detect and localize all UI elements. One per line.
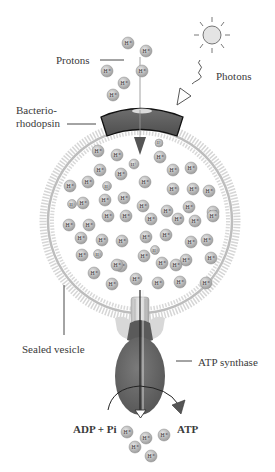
proton-symbol: H⁺: [142, 48, 149, 54]
protons-outside-bottom: H⁺H⁺H⁺H⁺H⁺: [121, 426, 170, 462]
proton-symbol: H⁺: [142, 234, 149, 240]
proton-symbol: H⁺: [120, 80, 127, 86]
proton-symbol: H⁺: [101, 197, 108, 203]
proton-symbol: H⁺: [158, 260, 165, 266]
proton-symbol: H⁺: [65, 222, 72, 228]
proton-symbol: H⁺: [84, 179, 91, 185]
proton-symbol: H⁺: [162, 232, 169, 238]
adp-pi-label: ADP + Pi: [73, 423, 117, 435]
proton-symbol: H⁺: [131, 162, 137, 167]
proton-symbol: H⁺: [185, 204, 192, 210]
sun-icon: [194, 17, 230, 53]
proton-symbol: H⁺: [113, 262, 120, 268]
proton-symbol: H⁺: [142, 435, 149, 441]
proton-symbol: H⁺: [78, 252, 85, 258]
proton-symbol: H⁺: [138, 68, 145, 74]
bacteriorhodopsin-label-line2: rhodopsin: [16, 117, 60, 129]
proton-symbol: H⁺: [169, 186, 176, 192]
proton-symbol: H⁺: [191, 218, 198, 224]
proton-symbol: H⁺: [98, 237, 105, 243]
proton-symbol: H⁺: [113, 152, 120, 158]
proton-symbol: H⁺: [147, 216, 154, 222]
proton-symbol: H⁺: [152, 248, 157, 253]
proton-symbol: H⁺: [163, 208, 170, 214]
proton-symbol: H⁺: [103, 68, 110, 74]
proton-symbol: H⁺: [120, 195, 127, 201]
proton-symbol: H⁺: [187, 239, 194, 245]
proton-symbol: H⁺: [122, 213, 129, 219]
sealed-vesicle-label: Sealed vesicle: [22, 343, 85, 355]
proton-symbol: H⁺: [176, 279, 183, 285]
proton-symbol: H⁺: [141, 179, 148, 185]
proton-symbol: H⁺: [202, 280, 209, 286]
atp-label: ATP: [177, 423, 198, 435]
atp-synthase-label: ATP synthase: [198, 356, 258, 368]
proton-symbol: H⁺: [160, 432, 167, 438]
proton-symbol: H⁺: [123, 429, 130, 435]
proton-symbol: H⁺: [156, 154, 163, 160]
proton-symbol: H⁺: [132, 276, 139, 282]
proton-symbol: H⁺: [124, 40, 131, 46]
proton-symbol: H⁺: [96, 167, 103, 173]
photons-label: Photons: [216, 70, 251, 82]
protons-outside-top: H⁺H⁺H⁺H⁺H⁺H⁺: [101, 37, 152, 101]
proton-symbol: H⁺: [77, 235, 84, 241]
proton-symbol: H⁺: [157, 141, 162, 145]
bacteriorhodopsin-atp-diagram: H⁺H⁺H⁺H⁺H⁺H⁺ H⁺H⁺H⁺H⁺H⁺H⁺H⁺H⁺H⁺H⁺H⁺H⁺H⁺H…: [0, 0, 275, 472]
proton-symbol: H⁺: [95, 252, 100, 257]
proton-symbol: H⁺: [182, 257, 189, 263]
proton-symbol: H⁺: [205, 188, 212, 194]
proton-symbol: H⁺: [139, 203, 146, 209]
proton-symbol: H⁺: [169, 167, 176, 173]
proton-symbol: H⁺: [94, 148, 101, 154]
proton-symbol: H⁺: [79, 200, 86, 206]
proton-symbol: H⁺: [85, 222, 92, 228]
proton-symbol: H⁺: [207, 255, 214, 261]
proton-symbol: H⁺: [154, 280, 161, 286]
proton-symbol: H⁺: [172, 262, 179, 268]
proton-symbol: H⁺: [209, 213, 216, 219]
bacteriorhodopsin-label-line1: Bacterio-: [16, 104, 57, 116]
proton-symbol: H⁺: [187, 165, 194, 171]
proton-symbol: H⁺: [131, 444, 138, 450]
photon-wave-icon: [177, 60, 202, 105]
proton-symbol: H⁺: [118, 238, 125, 244]
proton-symbol: H⁺: [117, 171, 124, 177]
proton-symbol: H⁺: [109, 92, 116, 98]
proton-symbol: H⁺: [69, 202, 74, 207]
proton-symbol: H⁺: [203, 237, 210, 243]
proton-symbol: H⁺: [140, 253, 147, 259]
proton-symbol: H⁺: [189, 186, 196, 192]
proton-symbol: H⁺: [174, 216, 181, 222]
protons-label: Protons: [56, 54, 90, 66]
proton-symbol: H⁺: [108, 281, 115, 287]
bacteriorhodopsin-pump: [101, 109, 183, 137]
proton-pump-arrow: [134, 137, 146, 155]
proton-symbol: H⁺: [90, 270, 97, 276]
proton-symbol: H⁺: [104, 213, 111, 219]
proton-symbol: H⁺: [104, 184, 109, 189]
proton-symbol: H⁺: [147, 453, 154, 459]
protons-inside-vesicle: H⁺H⁺H⁺H⁺H⁺H⁺H⁺H⁺H⁺H⁺H⁺H⁺H⁺H⁺H⁺H⁺H⁺H⁺H⁺H⁺…: [63, 139, 219, 290]
proton-symbol: H⁺: [66, 183, 73, 189]
